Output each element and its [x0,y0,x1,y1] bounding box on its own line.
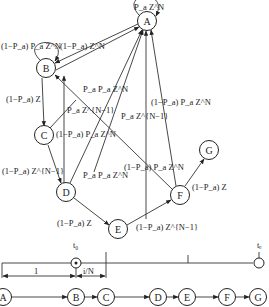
seq-label: C [103,292,110,303]
node-label: D [62,187,69,198]
edge-label-d-a: P_a P_a Z^N [83,170,128,180]
seq-label: D [154,292,161,303]
graph-node-f: F [171,186,190,205]
node-label: A [143,16,151,27]
graph-node-a: A [138,12,157,31]
seq-label: G [254,292,261,303]
edge-label-c-b: P_a Z^{N−1} [67,105,114,115]
node-label: E [115,224,121,235]
seq-node-b: B [68,289,85,306]
seq-node-a: A [0,289,12,306]
edge-labels: P_a Z^N (1−P_a) P_a Z^N (1−P_a) Z^N P_a … [1,2,227,232]
node-label: C [41,130,48,141]
segment-2-label: i/N [83,266,94,276]
seq-label: E [184,292,190,303]
edge-c-a [94,30,143,172]
edge-label-b-c: (1−P_a) Z [6,94,41,104]
seq-node-e: E [179,289,196,306]
state-transition-diagram: A B C D E F G P_a Z^N (1−P_a) P_a Z^N (1… [0,0,269,307]
node-label: G [205,145,212,156]
seq-node-f: F [219,289,236,306]
t0-label: t₀ [73,240,78,250]
seq-label: F [224,292,230,303]
edge-label-a-a: P_a Z^N [134,2,164,12]
te-marker [254,258,264,268]
seq-node-d: D [150,289,167,306]
seq-label: B [73,292,80,303]
edge-label-d-e: (1−P_a) Z [57,218,92,228]
graph-node-d: D [57,183,76,202]
sequence-row: A B C D E F G [0,289,267,306]
t0-marker [71,258,81,278]
edge-label-b-b: (1−P_a) P_a Z^N [1,41,61,51]
edge-label-e-f: (1−P_a) Z^{N−1} [136,222,198,232]
graph-node-c: C [35,126,54,145]
edge-label-f-g: (1−P_a) Z [192,182,227,192]
node-label: F [177,190,183,201]
edge-label-e-a: P_a Z^{N−1} [121,111,168,121]
edge-label-a-b: (1−P_a) Z^N [60,41,105,51]
edge-c-d [48,145,61,183]
edge-label-f-a: (1−P_a) P_a Z^N [151,97,211,107]
graph-node-e: E [109,220,128,239]
graph-node-g: G [200,141,219,160]
graph-node-b: B [37,59,56,78]
edge-label-c-a: (1−P_a) P_a Z^N [56,129,116,139]
edge-b-c [42,78,44,126]
edge-label-c-d: (1−P_a) Z^{N−1} [2,166,64,176]
seq-node-g: G [250,289,267,306]
edge-label-f-b: (1−P_a) P_a Z^N [124,162,184,172]
edge-label-b-a: P_a P_a Z^N [83,84,128,94]
seq-label: A [0,292,7,303]
seq-node-c: C [98,289,115,306]
timeline: t₀ tₑ 1 i/N [2,240,264,278]
te-label: tₑ [257,240,262,250]
segment-1-label: 1 [34,266,38,276]
node-label: B [43,63,50,74]
